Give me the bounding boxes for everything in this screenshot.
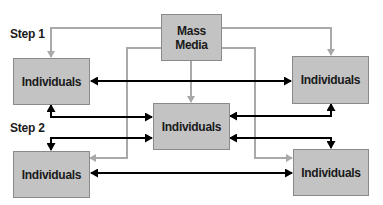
individuals-bottom-left-node: Individuals [13, 151, 90, 198]
media-to-bottom-left-arrow [90, 48, 161, 158]
node-label: Individuals [22, 75, 81, 89]
individuals-top-right-node: Individuals [292, 56, 369, 104]
step-1-label: Step 1 [10, 27, 45, 41]
bottom-right-to-center-arrow [230, 138, 331, 148]
mass-media-line2: Media [175, 38, 208, 52]
individuals-top-left-node: Individuals [13, 58, 90, 105]
media-to-top-left-arrow [51, 28, 161, 57]
mass-media-line1: Mass [177, 24, 206, 38]
node-label: Individuals [22, 168, 81, 182]
node-label: Individuals [162, 120, 221, 134]
top-left-to-center-arrow [51, 105, 152, 117]
mass-media-node: Mass Media [161, 14, 222, 61]
node-label: Individuals [301, 73, 360, 87]
media-to-top-right-arrow [222, 28, 331, 55]
media-to-bottom-right-arrow [222, 48, 292, 158]
step-2-label: Step 2 [10, 121, 45, 135]
bottom-left-to-center-arrow [51, 138, 152, 150]
top-right-to-center-arrow [230, 104, 331, 116]
individuals-bottom-right-node: Individuals [293, 149, 369, 196]
node-label: Individuals [301, 166, 360, 180]
individuals-center-node: Individuals [153, 103, 230, 150]
